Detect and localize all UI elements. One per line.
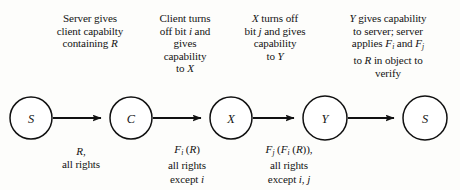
text-line: all rights xyxy=(150,159,224,172)
diagram-canvas: Server givesclient capabiltycontaining R… xyxy=(0,0,460,190)
text-line: except i, j xyxy=(238,173,340,186)
node-y: Y xyxy=(303,96,347,140)
node-s-2: S xyxy=(403,96,447,140)
edge-label-fi-r: Fi (R)all rightsexcept i xyxy=(150,143,224,186)
node-c: C xyxy=(110,97,152,139)
text-line: Fi (R) xyxy=(150,143,224,159)
node-s-1: S xyxy=(10,97,52,139)
node-x: X xyxy=(210,97,252,139)
text-line: all rights xyxy=(46,158,116,171)
node-x-label: X xyxy=(226,112,235,126)
node-c-label: C xyxy=(127,112,136,126)
node-s-1-label: S xyxy=(28,112,34,126)
edge-label-r-all-rights: R,all rights xyxy=(46,145,116,171)
text-line: all rights xyxy=(238,159,340,172)
edge-label-fj-fi-r: Fj (Fi (R)),all rightsexcept i, j xyxy=(238,143,340,186)
node-y-label: Y xyxy=(322,112,330,126)
text-line: except i xyxy=(150,173,224,186)
text-line: Fj (Fi (R)), xyxy=(238,143,340,159)
text-line: R, xyxy=(46,145,116,158)
node-s-2-label: S xyxy=(422,112,428,126)
